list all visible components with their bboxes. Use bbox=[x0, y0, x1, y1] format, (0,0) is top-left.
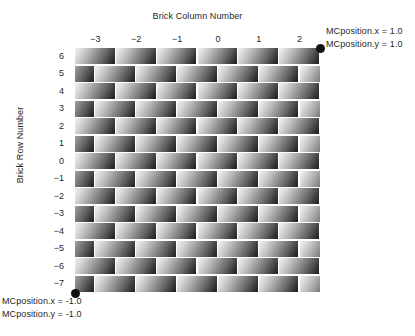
brick-cell bbox=[136, 66, 176, 82]
y-tick-label: −4 bbox=[34, 226, 64, 236]
brick-cell bbox=[238, 258, 278, 274]
brick-row bbox=[75, 118, 320, 136]
brick-cell bbox=[198, 83, 238, 99]
brick-cell bbox=[116, 223, 156, 239]
brick-cell bbox=[136, 101, 176, 117]
brick-cell bbox=[177, 136, 217, 152]
brick-cell bbox=[75, 48, 115, 64]
x-tick-label: 2 bbox=[288, 34, 312, 44]
brick-cell bbox=[157, 223, 197, 239]
brick-cell bbox=[218, 101, 258, 117]
brick-cell bbox=[238, 188, 278, 204]
brick-cell bbox=[75, 171, 94, 187]
brick-cell bbox=[198, 188, 238, 204]
brick-cell bbox=[198, 153, 238, 169]
brick-cell bbox=[259, 171, 299, 187]
brick-cell bbox=[198, 223, 238, 239]
brick-cell bbox=[95, 66, 135, 82]
brick-cell bbox=[75, 258, 115, 274]
brick-cell bbox=[279, 83, 319, 99]
brick-cell bbox=[157, 83, 197, 99]
y-tick-label: 4 bbox=[34, 86, 64, 96]
brick-cell bbox=[136, 276, 176, 292]
brick-cell bbox=[177, 206, 217, 222]
brick-cell bbox=[95, 171, 135, 187]
brick-cell bbox=[279, 258, 319, 274]
marker-dot-top-right bbox=[316, 44, 325, 53]
brick-cell bbox=[95, 276, 135, 292]
brick-cell bbox=[75, 206, 94, 222]
brick-cell bbox=[238, 223, 278, 239]
brick-cell bbox=[259, 206, 299, 222]
brick-row bbox=[75, 101, 320, 119]
brick-cell bbox=[136, 241, 176, 257]
brick-cell bbox=[300, 66, 320, 82]
brick-cell bbox=[259, 101, 299, 117]
brick-cell bbox=[116, 118, 156, 134]
brick-row bbox=[75, 276, 320, 294]
brick-cell bbox=[157, 258, 197, 274]
brick-cell bbox=[238, 118, 278, 134]
y-tick-label: 6 bbox=[34, 51, 64, 61]
y-tick-label: −7 bbox=[34, 278, 64, 288]
brick-cell bbox=[218, 136, 258, 152]
brick-cell bbox=[238, 48, 278, 64]
brick-cell bbox=[136, 171, 176, 187]
annotation-bottom-left-x: MCposition.x = -1.0 bbox=[2, 296, 82, 306]
brick-cell bbox=[259, 276, 299, 292]
brick-row bbox=[75, 171, 320, 189]
brick-cell bbox=[198, 118, 238, 134]
brick-cell bbox=[177, 171, 217, 187]
brick-cell bbox=[218, 66, 258, 82]
brick-cell bbox=[116, 188, 156, 204]
brick-cell bbox=[279, 48, 319, 64]
brick-cell bbox=[198, 258, 238, 274]
brick-cell bbox=[177, 101, 217, 117]
brick-cell bbox=[177, 66, 217, 82]
brick-cell bbox=[238, 153, 278, 169]
brick-cell bbox=[75, 136, 94, 152]
y-tick-label: 5 bbox=[34, 68, 64, 78]
brick-cell bbox=[75, 241, 94, 257]
brick-wall-plot bbox=[75, 48, 320, 293]
brick-cell bbox=[116, 48, 156, 64]
brick-cell bbox=[75, 101, 94, 117]
y-tick-label: −1 bbox=[34, 173, 64, 183]
brick-cell bbox=[300, 276, 320, 292]
brick-row bbox=[75, 153, 320, 171]
brick-cell bbox=[75, 188, 115, 204]
x-axis-title: Brick Column Number bbox=[75, 11, 320, 21]
brick-row bbox=[75, 66, 320, 84]
x-tick-label: −2 bbox=[124, 34, 148, 44]
brick-cell bbox=[116, 258, 156, 274]
brick-row bbox=[75, 136, 320, 154]
brick-cell bbox=[300, 171, 320, 187]
brick-cell bbox=[279, 118, 319, 134]
y-tick-label: 1 bbox=[34, 138, 64, 148]
brick-cell bbox=[300, 136, 320, 152]
brick-cell bbox=[279, 223, 319, 239]
brick-cell bbox=[198, 48, 238, 64]
brick-cell bbox=[300, 101, 320, 117]
brick-row bbox=[75, 188, 320, 206]
brick-cell bbox=[95, 101, 135, 117]
brick-cell bbox=[75, 223, 115, 239]
brick-cell bbox=[75, 66, 94, 82]
y-tick-label: −5 bbox=[34, 243, 64, 253]
brick-cell bbox=[259, 66, 299, 82]
brick-cell bbox=[218, 206, 258, 222]
brick-cell bbox=[157, 118, 197, 134]
brick-row bbox=[75, 206, 320, 224]
y-tick-label: 0 bbox=[34, 156, 64, 166]
x-tick-label: −3 bbox=[83, 34, 107, 44]
annotation-top-right-y: MCposition.y = 1.0 bbox=[326, 39, 403, 49]
y-tick-label: 3 bbox=[34, 103, 64, 113]
brick-cell bbox=[177, 276, 217, 292]
brick-cell bbox=[116, 153, 156, 169]
y-tick-label: −6 bbox=[34, 261, 64, 271]
brick-cell bbox=[75, 83, 115, 99]
brick-cell bbox=[95, 206, 135, 222]
y-tick-label: −3 bbox=[34, 208, 64, 218]
brick-row bbox=[75, 241, 320, 259]
brick-cell bbox=[238, 83, 278, 99]
